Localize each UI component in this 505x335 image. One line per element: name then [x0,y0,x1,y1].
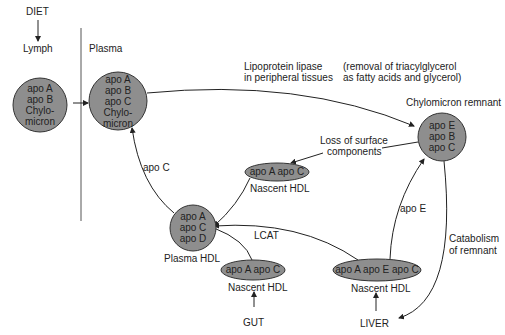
arrow-lcat [214,225,358,260]
annotation-lcat: LCAT [254,230,279,242]
apo-line: apo B [422,131,462,142]
annotation-apo-e: apo E [400,203,426,215]
apo-line: apo A [173,211,213,222]
annotation-loss-2: components [327,146,381,158]
plasma-chylomicron-text: apo A apo B apo C Chylo- micron [93,74,143,129]
apo-line: apo C [422,142,462,153]
nascent-hdl-liver-caption: Nascent HDL [351,283,410,295]
label-gut: GUT [243,317,264,329]
label-plasma: Plasma [89,43,122,55]
plasma-hdl-text: apo A apo C apo D [173,211,213,244]
apo-line: apo C [93,96,143,107]
apo-line: apo E [422,120,462,131]
apo-line: apo C [173,222,213,233]
remnant-text: apo E apo B apo C [422,120,462,153]
annotation-removal-2: as fatty acids and glycerol) [343,72,461,84]
annotation-catabolism-2: of remnant [449,245,497,257]
label-liver: LIVER [360,318,389,330]
label-chylomicron-remnant: Chylomicron remnant [406,97,501,109]
apo-line: micron [15,116,65,127]
annotation-apo-c: apo C [143,162,170,174]
annotation-lipase-2: in peripheral tissues [244,72,333,84]
apo-line: Chylo- [93,107,143,118]
nascent-hdl-top-text: apo A apo C [245,166,309,177]
nascent-hdl-top-caption: Nascent HDL [250,183,309,195]
nascent-hdl-liver-text: apo A apo E apo C [333,264,421,275]
apo-line: Chylo- [15,105,65,116]
apo-line: apo B [93,85,143,96]
label-lymph: Lymph [23,43,53,55]
apo-line: apo B [15,94,65,105]
nascent-hdl-gut-text: apo A apo C [221,264,285,275]
annotation-catabolism-1: Catabolism [449,233,499,245]
plasma-hdl-caption: Plasma HDL [164,253,220,265]
apo-line: apo A [93,74,143,85]
apo-line: apo D [173,233,213,244]
apo-line: micron [93,118,143,129]
nascent-hdl-gut-caption: Nascent HDL [228,282,287,294]
apo-line: apo A [15,83,65,94]
lymph-chylomicron-text: apo A apo B Chylo- micron [15,83,65,127]
arrow-lipase [147,89,414,126]
label-diet: DIET [26,6,49,18]
arrow-nascent-top-to-hdl [214,178,250,226]
arrow-loss-to-nascent [291,153,323,163]
